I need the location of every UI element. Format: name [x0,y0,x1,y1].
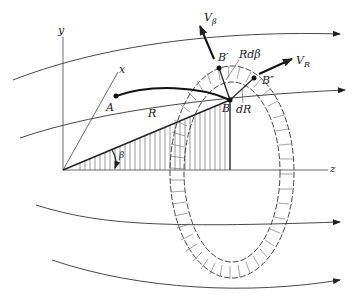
dr-leader [242,88,243,103]
streamline-4 [52,260,340,288]
beta-arc [112,150,116,168]
radius-label: R [148,108,156,119]
v-beta-main: V [204,11,212,24]
z-axis-label: z [330,164,335,174]
point-B-double-prime-label: B″ [262,75,274,86]
v-r-arrow [259,59,292,74]
point-B-double-prime [252,76,257,81]
angle-beta-label: β [119,151,124,160]
point-A-label: A [106,102,114,113]
rdbeta-label: Rdβ [239,49,261,60]
streamline-2 [20,90,345,138]
x-axis-label: x [119,64,125,75]
axes [63,37,328,170]
v-beta-subscript: β [212,17,217,26]
streamline-1 [13,33,340,80]
y-axis-label: y [58,25,64,36]
v-beta-arrow [200,26,214,59]
point-B-prime [217,66,222,71]
v-beta-label: Vβ [204,12,217,26]
point-A [114,94,119,99]
v-r-subscript: R [304,60,310,69]
point-B-label: B [222,103,230,114]
path-A-to-B [116,88,230,100]
v-r-label: VR [296,55,310,69]
ring-inner [184,82,280,262]
dr-label: dR [236,104,251,115]
v-r-main: V [296,54,304,67]
diagram-canvas [0,0,358,305]
point-B-prime-label: B′ [218,52,229,63]
